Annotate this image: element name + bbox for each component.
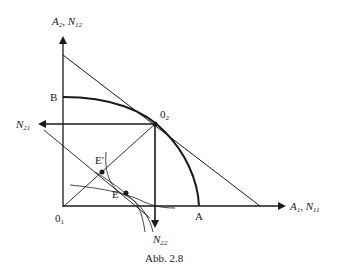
point-e-prime [100, 170, 105, 175]
isoquant-3 [95, 172, 145, 232]
label-a: A [195, 210, 203, 222]
label-o1: 01 [55, 212, 65, 226]
n22-label: N22 [152, 233, 168, 247]
transformation-curve [63, 97, 199, 206]
label-b: B [50, 91, 57, 103]
tangent-line [63, 55, 260, 206]
label-e: E [112, 188, 119, 200]
diagonal-o1-o2 [63, 124, 155, 207]
y-axis-label: A2, N12 [51, 15, 83, 29]
label-o2: 02 [160, 108, 170, 122]
point-o2 [153, 122, 158, 127]
figure-caption: Abb. 2.8 [145, 252, 184, 264]
point-e [124, 191, 129, 196]
n21-label: N21 [15, 118, 30, 132]
label-e-prime: E′ [95, 154, 104, 166]
x-axis-label: A1, N11 [289, 200, 320, 214]
edgeworth-box-diagram: A2, N12 A1, N11 N21 N22 B A 02 01 E′ E A… [0, 0, 340, 276]
isoquant-1 [70, 185, 175, 208]
